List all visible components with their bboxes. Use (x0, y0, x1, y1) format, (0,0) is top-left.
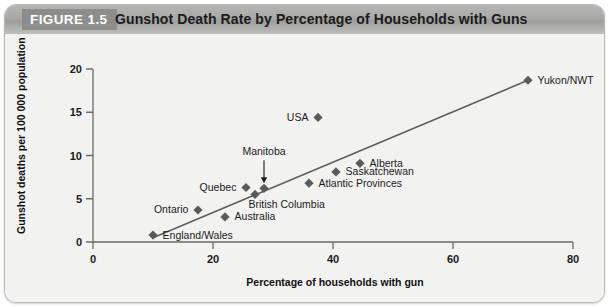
y-axis-ticks: 05101520 (70, 63, 93, 248)
trend-line (153, 80, 528, 237)
x-axis-title: Percentage of households with gun (246, 276, 423, 288)
data-point-marker (313, 113, 322, 122)
data-point-usa: USA (287, 111, 323, 123)
data-points: England/WalesOntarioAustraliaQuebecBriti… (148, 74, 594, 241)
data-point-label: British Columbia (248, 198, 325, 210)
data-point-atlantic-provinces: Atlantic Provinces (304, 177, 402, 189)
data-point-marker (220, 212, 229, 221)
data-point-label: Yukon/NWT (538, 74, 595, 86)
data-point-label: Alberta (370, 157, 403, 169)
y-tick-label: 10 (70, 150, 82, 162)
data-point-label: Quebec (200, 181, 237, 193)
data-point-label: USA (287, 111, 309, 123)
figure-title: Gunshot Death Rate by Percentage of Hous… (115, 9, 527, 30)
callout-arrow-head (261, 177, 267, 183)
data-point-marker (304, 179, 313, 188)
y-axis-title: Gunshot deaths per 100 000 population (15, 37, 27, 234)
figure-card: FIGURE 1.5 Gunshot Death Rate by Percent… (4, 4, 605, 303)
data-point-australia: Australia (220, 210, 275, 222)
x-tick-label: 40 (327, 253, 339, 265)
data-point-quebec: Quebec (200, 181, 251, 193)
callout-annotations: Manitoba (242, 145, 285, 183)
data-point-label: Australia (235, 210, 276, 222)
y-tick-label: 15 (70, 106, 82, 118)
x-tick-label: 80 (567, 253, 579, 265)
chart-plot-area: 05101520 020406080 England/WalesOntarioA… (5, 34, 605, 303)
data-point-label: Ontario (154, 203, 189, 215)
figure-number-badge: FIGURE 1.5 (22, 9, 117, 30)
data-point-label: England/Wales (163, 229, 233, 241)
data-point-marker (523, 76, 532, 85)
y-tick-label: 5 (76, 193, 82, 205)
data-point-marker (241, 183, 250, 192)
x-tick-label: 0 (90, 253, 96, 265)
x-tick-label: 60 (447, 253, 459, 265)
scatter-chart: 05101520 020406080 England/WalesOntarioA… (5, 34, 605, 303)
callout-label: Manitoba (242, 145, 285, 157)
chart-axes (93, 69, 573, 242)
x-tick-label: 20 (207, 253, 219, 265)
data-point-yukon-nwt: Yukon/NWT (523, 74, 594, 86)
data-point-marker (193, 205, 202, 214)
data-point-label: Atlantic Provinces (319, 177, 402, 189)
x-axis-ticks: 020406080 (90, 242, 579, 265)
data-point-marker (148, 230, 157, 239)
data-point-ontario: Ontario (154, 203, 203, 215)
figure-header-band: FIGURE 1.5 Gunshot Death Rate by Percent… (5, 5, 605, 35)
y-tick-label: 20 (70, 63, 82, 75)
data-point-marker (331, 167, 340, 176)
axis-lines (93, 69, 573, 242)
y-tick-label: 0 (76, 236, 82, 248)
trend-line-segment (153, 80, 528, 237)
